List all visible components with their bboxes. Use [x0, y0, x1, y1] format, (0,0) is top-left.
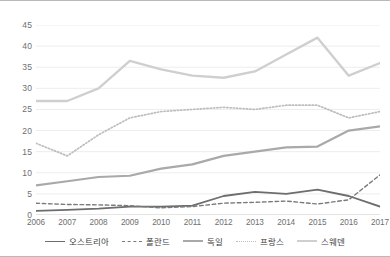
plot-svg [36, 25, 380, 215]
y-axis-tick-label: 5 [2, 189, 32, 199]
plot-area [36, 25, 380, 215]
y-axis: 051015202530354045 [0, 25, 32, 215]
legend-label: 오스트리아 [69, 235, 109, 247]
legend-item-1[interactable]: 폴란드 [122, 235, 170, 247]
x-axis-tick-label: 2015 [300, 218, 334, 227]
legend-label: 프랑스 [260, 235, 284, 247]
legend-item-3[interactable]: 프랑스 [236, 235, 284, 247]
x-axis-tick-label: 2008 [82, 218, 116, 227]
legend-item-2[interactable]: 독일 [183, 235, 223, 247]
x-axis-tick-label: 2012 [207, 218, 241, 227]
y-axis-tick-label: 40 [2, 41, 32, 51]
x-axis-tick-label: 2017 [363, 218, 390, 227]
x-axis-tick-label: 2014 [269, 218, 303, 227]
x-axis-tick-label: 2007 [50, 218, 84, 227]
legend-swatch-icon [183, 240, 203, 242]
legend-swatch-icon [236, 241, 256, 242]
y-axis-tick-label: 30 [2, 83, 32, 93]
legend-item-0[interactable]: 오스트리아 [45, 235, 109, 247]
y-axis-tick-label: 20 [2, 126, 32, 136]
line-chart: 051015202530354045 200620072008200920102… [0, 0, 390, 257]
x-axis-tick-label: 2011 [175, 218, 209, 227]
series-line-4 [36, 38, 380, 101]
x-axis-tick-label: 2010 [144, 218, 178, 227]
y-axis-tick-label: 10 [2, 168, 32, 178]
legend-label: 스웨덴 [321, 235, 345, 247]
series-line-2 [36, 126, 380, 185]
legend-swatch-icon [297, 240, 317, 242]
legend-label: 독일 [207, 235, 223, 247]
x-axis-tick-label: 2006 [19, 218, 53, 227]
x-axis-tick-label: 2009 [113, 218, 147, 227]
legend-swatch-icon [45, 241, 65, 242]
y-axis-tick-label: 15 [2, 147, 32, 157]
x-axis-tick-label: 2016 [332, 218, 366, 227]
legend-item-4[interactable]: 스웨덴 [297, 235, 345, 247]
y-axis-tick-label: 35 [2, 62, 32, 72]
x-axis-tick-label: 2013 [238, 218, 272, 227]
y-axis-tick-label: 45 [2, 20, 32, 30]
legend-swatch-icon [122, 241, 142, 242]
y-axis-tick-label: 25 [2, 104, 32, 114]
chart-legend: 오스트리아폴란드독일프랑스스웨덴 [0, 235, 390, 247]
legend-label: 폴란드 [146, 235, 170, 247]
series-line-0 [36, 190, 380, 211]
